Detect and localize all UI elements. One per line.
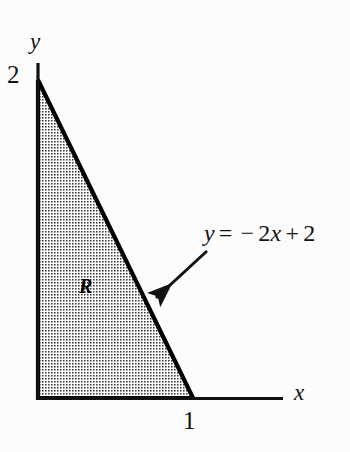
y-axis-tick-label-2: 2 <box>7 62 20 87</box>
equation-plus-sign: + <box>284 220 300 246</box>
equation-minus-sign: − <box>240 220 256 246</box>
equation-coefficient: 2 <box>258 220 270 246</box>
equation-variable: x <box>271 220 282 246</box>
y-axis-label: y <box>30 30 40 53</box>
x-axis-tick-label-1: 1 <box>183 408 196 433</box>
x-axis-label: x <box>294 381 304 404</box>
equation-constant: 2 <box>303 220 315 246</box>
equation-annotation-arrow <box>156 251 207 298</box>
equation-equals-sign: = <box>218 220 234 246</box>
equation-lhs: y <box>204 220 215 246</box>
figure-canvas: y x 2 1 R y=−2x+2 <box>0 0 350 452</box>
line-equation-label: y=−2x+2 <box>204 221 315 245</box>
region-label-R: R <box>79 276 92 296</box>
